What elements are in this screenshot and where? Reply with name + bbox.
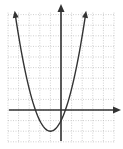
parabola-graph <box>0 0 123 149</box>
y-axis-arrow-icon <box>58 4 65 12</box>
x-axis-arrow-icon <box>113 107 121 114</box>
